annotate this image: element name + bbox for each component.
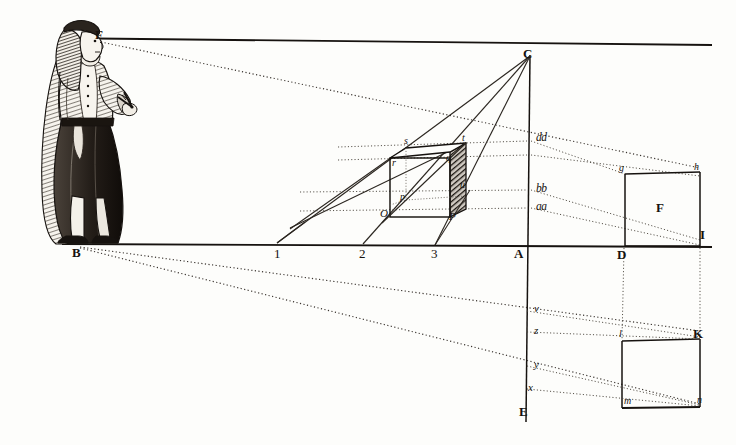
transversal-guides [290,143,466,229]
observer-figure [42,21,137,244]
engraving-plate: F B C 1 2 3 A D I O P r q s t p u dd bb … [0,0,736,445]
perspective-diagram [0,0,736,445]
ground-line-group [62,244,712,247]
visual-ray-F-dd [101,42,700,168]
square-lKmn [622,339,700,408]
projection-lines-right [531,141,700,245]
vertical-axis-CE [526,55,530,422]
drop-lines-to-lower-square [622,248,700,340]
visual-rays-from-B [80,247,700,404]
square-F [625,172,700,246]
projection-lines-lower [527,311,700,406]
perspective-cube [382,143,470,245]
horizon-line-group [96,39,712,46]
